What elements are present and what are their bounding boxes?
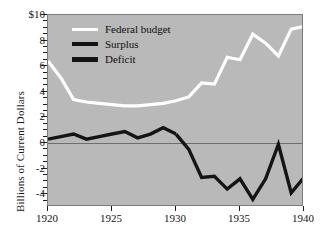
y-tick-mark [41,116,47,117]
x-tick-label: 1935 [228,212,250,224]
y-tick-mark-minor [43,20,47,21]
y-tick-mark-minor [43,84,47,85]
series-line [48,128,176,140]
y-axis-tick-labels: -4-202468$10 [18,0,45,239]
y-tick-mark-minor [43,52,47,53]
y-tick-mark-minor [43,187,47,188]
y-tick-mark [41,65,47,66]
legend-swatch-icon [72,42,98,46]
x-tick-mark [303,206,304,211]
legend-item: Deficit [72,52,171,66]
y-tick-mark-minor [43,27,47,28]
y-tick-mark-minor [43,123,47,124]
y-tick-mark [41,168,47,169]
legend-label: Deficit [105,53,136,65]
x-tick-label: 1930 [164,212,186,224]
legend-item: Surplus [72,37,171,51]
y-tick-mark [41,40,47,41]
chart-figure: Billions of Current Dollars -4-202468$10… [0,0,320,239]
y-tick-mark-minor [43,136,47,137]
y-tick-mark-minor [43,161,47,162]
y-tick-mark-minor [43,110,47,111]
y-tick-mark-minor [43,46,47,47]
y-tick-mark [41,14,47,15]
y-tick-mark-minor [43,155,47,156]
x-tick-mark [111,206,112,211]
y-tick-mark-minor [43,33,47,34]
y-tick-mark [41,193,47,194]
y-axis-title-container: Billions of Current Dollars [0,0,18,225]
chart-legend: Federal budgetSurplusDeficit [72,22,171,67]
x-tick-label: 1940 [292,212,314,224]
x-tick-label: 1920 [36,212,58,224]
series-line [176,134,303,199]
y-tick-mark-minor [43,200,47,201]
x-tick-mark [239,206,240,211]
legend-swatch-icon [72,28,98,31]
y-tick-mark-minor [43,174,47,175]
y-tick-mark-minor [43,148,47,149]
y-tick-mark [41,142,47,143]
y-tick-mark-minor [43,78,47,79]
x-tick-mark [175,206,176,211]
x-tick-label: 1925 [100,212,122,224]
legend-item: Federal budget [72,22,171,36]
x-tick-mark [47,206,48,211]
legend-label: Surplus [105,38,139,50]
y-tick-mark-minor [43,97,47,98]
legend-swatch-icon [72,57,98,62]
y-tick-mark-minor [43,72,47,73]
y-tick-mark [41,91,47,92]
legend-label: Federal budget [105,23,171,35]
y-tick-mark-minor [43,59,47,60]
y-tick-mark-minor [43,104,47,105]
y-tick-mark-minor [43,129,47,130]
y-tick-mark-minor [43,180,47,181]
